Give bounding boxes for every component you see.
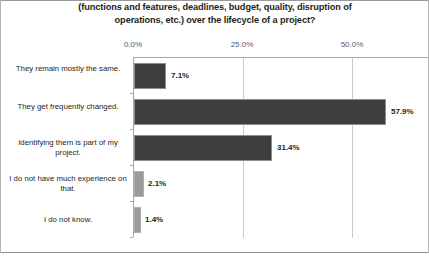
table-row: Identifying them is part of my project. …: [0, 130, 429, 166]
bar-0[interactable]: [134, 63, 166, 89]
bar-4[interactable]: [134, 207, 141, 233]
category-label-2: Identifying them is part of my project.: [6, 138, 130, 159]
xtick-label-2: 50.0%: [332, 40, 372, 49]
category-label-3: I do not have much experience on that.: [6, 174, 130, 195]
frame-bottom-border: [0, 252, 429, 253]
axis-tick-4: [130, 237, 133, 238]
bar-1[interactable]: [134, 99, 386, 125]
bar-value-2: 31.4%: [277, 143, 300, 152]
chart-screenshot: (functions and features, deadlines, budg…: [0, 0, 429, 259]
category-label-0: They remain mostly the same.: [6, 64, 130, 74]
bar-2[interactable]: [134, 135, 272, 161]
bar-value-1: 57.9%: [391, 107, 414, 116]
category-label-1: They get frequently changed.: [6, 102, 130, 112]
chart-title: (functions and features, deadlines, budg…: [28, 1, 402, 27]
bar-value-3: 2.1%: [148, 179, 166, 188]
table-row: They get frequently changed. 57.9%: [0, 94, 429, 130]
bar-3[interactable]: [134, 171, 144, 197]
table-row: I do not have much experience on that. 2…: [0, 166, 429, 202]
xtick-label-0: 0.0%: [113, 40, 153, 49]
bar-value-4: 1.4%: [145, 215, 163, 224]
xtick-label-1: 25.0%: [222, 40, 262, 49]
bar-value-0: 7.1%: [171, 71, 189, 80]
table-row: They remain mostly the same. 7.1%: [0, 58, 429, 94]
chart-title-line-1: (functions and features, deadlines, budg…: [28, 1, 402, 14]
chart-title-line-2: operations, etc.) over the lifecycle of …: [28, 14, 402, 27]
table-row: I do not know. 1.4%: [0, 202, 429, 238]
category-label-4: I do not know.: [6, 215, 130, 225]
